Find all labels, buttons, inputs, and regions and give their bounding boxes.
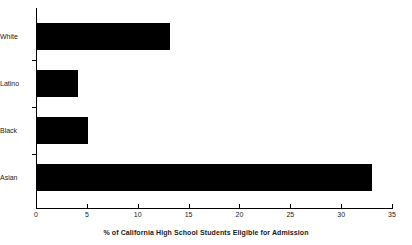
category-label-asian: Asian: [0, 174, 32, 182]
x-axis-tick-label-0: 0: [24, 211, 48, 219]
x-axis-tick-0: [36, 204, 37, 209]
x-axis-tick-35: [392, 204, 393, 209]
x-axis-tick-label-30: 30: [329, 211, 353, 219]
bar-white: [36, 23, 170, 50]
x-axis-tick-10: [138, 204, 139, 209]
x-axis-tick-15: [189, 204, 190, 209]
x-axis-tick-25: [290, 204, 291, 209]
bar-black: [36, 117, 88, 144]
x-axis-tick-label-5: 5: [75, 211, 99, 219]
x-axis-title: % of California High School Students Eli…: [0, 229, 412, 237]
x-axis-tick-label-25: 25: [278, 211, 302, 219]
y-axis-tick: [32, 60, 37, 61]
y-axis-tick: [32, 107, 37, 108]
x-axis-tick-label-20: 20: [227, 211, 251, 219]
category-label-latino: Latino: [0, 80, 32, 88]
bar-latino: [36, 70, 78, 97]
x-axis-tick-30: [341, 204, 342, 209]
category-label-white: White: [0, 33, 32, 41]
x-axis-tick-5: [87, 204, 88, 209]
x-axis-tick-label-35: 35: [380, 211, 404, 219]
x-axis-tick-20: [239, 204, 240, 209]
x-axis-line: [36, 208, 393, 209]
bar-chart: WhiteLatinoBlackAsian 05101520253035 % o…: [0, 0, 412, 245]
x-axis-tick-label-10: 10: [126, 211, 150, 219]
bar-asian: [36, 164, 372, 191]
x-axis-tick-label-15: 15: [177, 211, 201, 219]
category-label-black: Black: [0, 127, 32, 135]
y-axis-tick: [32, 154, 37, 155]
